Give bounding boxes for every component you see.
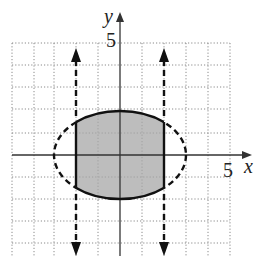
y-axis-arrow-icon <box>116 12 124 22</box>
arrow-up-icon <box>71 48 81 62</box>
x-axis-label: x <box>244 156 253 176</box>
y-tick-label: 5 <box>106 30 116 50</box>
arrow-down-icon <box>159 242 169 256</box>
arrow-up-icon <box>159 48 169 62</box>
y-axis-label: y <box>104 6 113 26</box>
x-tick-label: 5 <box>223 160 233 180</box>
region-plot <box>0 0 262 256</box>
arrow-down-icon <box>71 242 81 256</box>
